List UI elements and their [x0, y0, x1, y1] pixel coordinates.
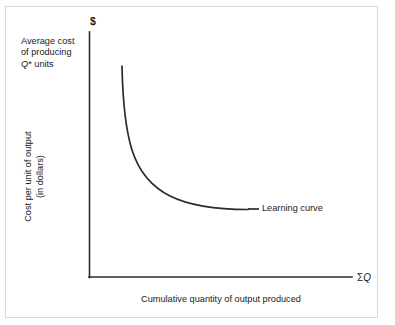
- x-axis-caption: Cumulative quantity of output produced: [89, 294, 353, 305]
- x-axis-sigma-q-label: ΣQ: [357, 272, 371, 283]
- learning-curve-path: [122, 66, 248, 210]
- y-axis-title: Cost per unit of output (in dollars): [23, 112, 46, 242]
- average-cost-note: Average cost of producing Q* units: [21, 36, 87, 70]
- y-axis-currency-symbol: $: [90, 16, 96, 27]
- average-cost-note-line3-rest: * units: [28, 59, 54, 69]
- q-symbol: Q: [363, 272, 371, 283]
- y-axis-title-line2: (in dollars): [35, 155, 45, 198]
- learning-curve-legend-label: Learning curve: [262, 203, 323, 214]
- figure-canvas: $ Average cost of producing Q* units Cos…: [0, 0, 395, 325]
- y-axis-title-line1: Cost per unit of output: [23, 131, 33, 221]
- average-cost-note-line1: Average cost: [21, 36, 74, 46]
- average-cost-note-line2: of producing: [21, 47, 72, 57]
